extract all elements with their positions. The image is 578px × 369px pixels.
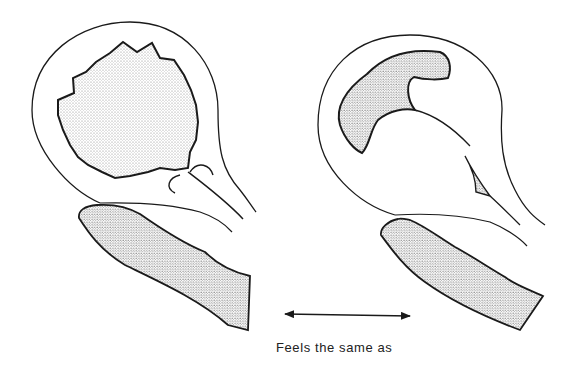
- left-neck-line: [188, 172, 243, 219]
- illustration: [0, 0, 578, 369]
- left-neck-hook-2: [190, 165, 213, 175]
- left-stippled-mass: [58, 42, 198, 178]
- left-neck-hook-1: [169, 175, 180, 193]
- left-finger: [79, 205, 250, 330]
- right-finger: [381, 219, 543, 330]
- diagram-canvas: Feels the same as: [0, 0, 578, 369]
- left-panel: [32, 22, 256, 330]
- right-inner-curve: [415, 110, 470, 146]
- right-neck-line: [490, 196, 520, 225]
- right-stippled-triangle: [465, 156, 490, 196]
- right-stippled-crescent: [339, 51, 450, 153]
- double-arrow-icon: [285, 314, 410, 316]
- right-panel: [318, 35, 545, 330]
- figure-caption: Feels the same as: [276, 340, 426, 355]
